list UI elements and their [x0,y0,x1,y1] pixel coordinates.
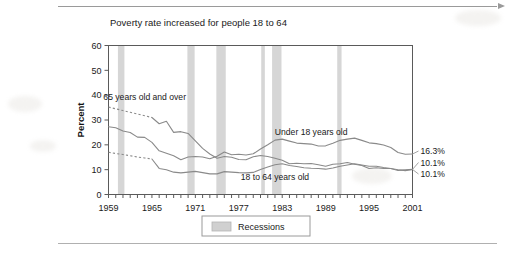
x-tick-label: 1989 [316,203,336,213]
y-tick-label: 0 [96,190,101,200]
end-value-label-0: 16.3% [421,146,446,156]
recession-band-5 [337,46,341,195]
end-value-label-1: 10.1% [421,158,446,168]
x-tick-label: 1983 [272,203,292,213]
y-tick-label: 10 [91,165,101,175]
x-tick-label: 1977 [229,203,249,213]
series-line-1 [109,127,413,160]
x-tick-label: 1971 [185,203,205,213]
end-value-labels-group: 16.3%10.1%10.1% [413,146,446,179]
x-tick-label: 1995 [359,203,379,213]
value-leader-2 [413,169,419,174]
y-tick-label: 50 [91,66,101,76]
y-axis: 0102030405060 [91,41,108,200]
chart-legend: Recessions [202,216,310,236]
value-leader-1 [413,163,419,170]
legend-swatch-recessions [212,222,231,231]
x-tick-label: 1959 [98,203,118,213]
series-line-dashed-0 [109,107,152,117]
y-tick-label: 20 [91,140,101,150]
x-tick-label: 2001 [402,203,422,213]
end-value-label-2: 10.1% [421,169,446,179]
value-leader-0 [413,151,419,154]
y-tick-label: 30 [91,115,101,125]
x-axis: 19591965197119771983198919952001 [98,195,422,213]
x-tick-label: 1965 [142,203,162,213]
y-tick-label: 60 [91,41,101,51]
series-line-dashed-2 [109,152,152,159]
legend-label-recessions: Recessions [238,222,285,232]
y-tick-label: 40 [91,90,101,100]
recession-band-0 [118,46,125,195]
y-axis-title: Percent [75,102,86,138]
series-lines-group [109,107,413,174]
poverty-rate-line-chart: 0102030405060 19591965197119771983198919… [0,0,515,256]
series-label-0: 65 years old and over [103,92,186,102]
series-label-2: 18 to 64 years old [241,172,310,182]
series-label-1: Under 18 years old [275,127,348,137]
